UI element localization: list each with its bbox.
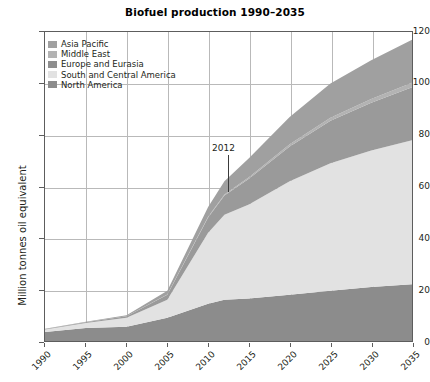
legend-item[interactable]: South and Central America xyxy=(48,70,176,80)
x-axis-tick-mark xyxy=(126,343,127,347)
legend-item[interactable]: Europe and Eurasia xyxy=(48,59,176,69)
x-axis-tick-mark xyxy=(44,343,45,347)
annotation-2012-label: 2012 xyxy=(212,143,235,153)
x-axis-tick-label: 1990 xyxy=(23,349,53,379)
x-axis-tick-mark xyxy=(249,343,250,347)
x-axis-tick-label: 2000 xyxy=(105,349,135,379)
legend-item-label: Europe and Eurasia xyxy=(61,59,144,69)
x-axis-tick-mark xyxy=(331,343,332,347)
annotation-2012-leader-line xyxy=(228,155,229,192)
y-axis-title-wrapper: Million tonnes oil equivalent xyxy=(8,80,22,280)
y-axis-title: Million tonnes oil equivalent xyxy=(17,136,28,336)
legend-item-label: Middle East xyxy=(61,49,110,59)
legend-item-label: Asia Pacific xyxy=(61,39,109,49)
legend-swatch-icon xyxy=(48,71,57,78)
x-axis-tick-label: 2020 xyxy=(269,349,299,379)
x-axis-tick-label: 2030 xyxy=(351,349,381,379)
x-axis-tick-mark xyxy=(372,343,373,347)
x-axis-tick-mark xyxy=(167,343,168,347)
x-axis-tick-mark xyxy=(208,343,209,347)
x-axis-tick-label: 2025 xyxy=(310,349,340,379)
legend-swatch-icon xyxy=(48,81,57,88)
legend-item-label: South and Central America xyxy=(61,70,176,80)
x-axis-tick-mark xyxy=(290,343,291,347)
legend-swatch-icon xyxy=(48,51,57,58)
legend-item[interactable]: North America xyxy=(48,80,176,90)
x-axis-tick-label: 1995 xyxy=(64,349,94,379)
legend: Asia PacificMiddle EastEurope and Eurasi… xyxy=(48,39,176,90)
x-axis-tick-label: 2010 xyxy=(187,349,217,379)
x-axis-tick-mark xyxy=(85,343,86,347)
chart-root: Biofuel production 1990–2035 Million ton… xyxy=(0,0,430,382)
x-axis-tick-mark xyxy=(413,343,414,347)
legend-swatch-icon xyxy=(48,61,57,68)
legend-item[interactable]: Middle East xyxy=(48,49,176,59)
x-axis-tick-label: 2015 xyxy=(228,349,258,379)
x-axis-tick-label: 2005 xyxy=(146,349,176,379)
legend-item[interactable]: Asia Pacific xyxy=(48,39,176,49)
x-axis-tick-label: 2035 xyxy=(392,349,422,379)
legend-item-label: North America xyxy=(61,80,123,90)
legend-swatch-icon xyxy=(48,41,57,48)
page-title: Biofuel production 1990–2035 xyxy=(0,6,430,18)
